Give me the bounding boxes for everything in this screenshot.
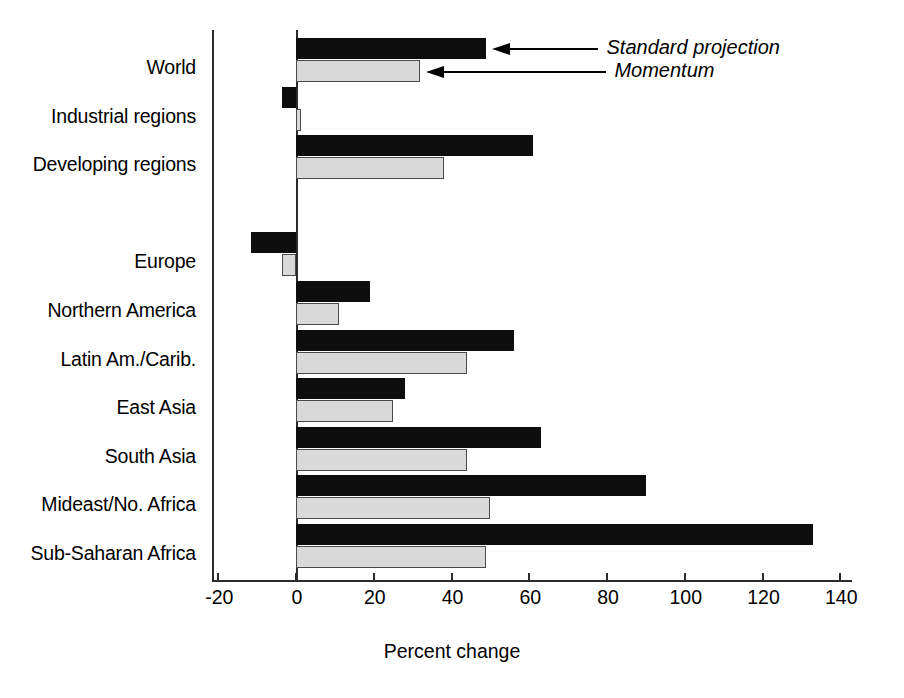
x-tick-label: 120: [734, 586, 794, 608]
bar-mom: [296, 546, 486, 568]
x-tick-label: 100: [656, 586, 716, 608]
bar-mom: [296, 109, 301, 131]
bar-mom: [296, 497, 490, 519]
momentum-arrow-icon: [426, 65, 606, 79]
bar-mom: [296, 449, 467, 471]
x-axis-line: [212, 580, 852, 582]
x-tick-mark: [451, 573, 453, 582]
bar-mom: [296, 352, 467, 374]
bar-std: [296, 330, 514, 351]
bar-std: [296, 281, 370, 302]
bar-mom: [296, 60, 420, 82]
bar-mom: [296, 400, 393, 422]
x-tick-mark: [684, 573, 686, 582]
x-tick-mark: [295, 573, 297, 582]
x-axis-title: Percent change: [0, 640, 904, 663]
bar-std: [282, 87, 296, 108]
bar-mom: [296, 303, 339, 325]
category-label: East Asia: [0, 397, 196, 417]
category-label: Northern America: [0, 300, 196, 320]
bar-std: [296, 475, 646, 496]
bar-mom: [282, 254, 296, 276]
category-label: Mideast/No. Africa: [0, 494, 196, 514]
left-axis-spine: [212, 30, 214, 582]
x-tick-mark: [528, 573, 530, 582]
x-tick-label: 40: [423, 586, 483, 608]
bar-mom: [296, 157, 444, 179]
category-label: Sub-Saharan Africa: [0, 543, 196, 563]
x-tick-mark: [839, 573, 841, 582]
category-label: Latin Am./Carib.: [0, 349, 196, 369]
bar-std: [296, 38, 486, 59]
x-tick-mark: [762, 573, 764, 582]
x-tick-label: 60: [500, 586, 560, 608]
x-tick-label: 0: [267, 586, 327, 608]
category-label: Europe: [0, 251, 196, 271]
x-tick-mark: [217, 573, 219, 582]
category-label: World: [0, 57, 196, 77]
x-tick-mark: [373, 573, 375, 582]
bar-std: [251, 232, 296, 253]
x-tick-mark: [606, 573, 608, 582]
momentum-annotation-label: Momentum: [614, 59, 714, 82]
plot-area: -20020406080100120140 Standard projectio…: [212, 30, 852, 582]
bar-std: [296, 135, 533, 156]
x-tick-label: -20: [189, 586, 249, 608]
standard-projection-arrow-icon: [492, 42, 598, 56]
bar-std: [296, 427, 541, 448]
x-tick-label: 80: [578, 586, 638, 608]
bar-chart: WorldIndustrial regionsDeveloping region…: [0, 0, 904, 698]
bar-std: [296, 378, 405, 399]
category-label: Developing regions: [0, 154, 196, 174]
bar-std: [296, 524, 813, 545]
category-labels: WorldIndustrial regionsDeveloping region…: [0, 30, 196, 590]
standard-projection-annotation-label: Standard projection: [606, 36, 779, 59]
category-label: South Asia: [0, 446, 196, 466]
x-tick-label: 140: [811, 586, 871, 608]
x-tick-label: 20: [345, 586, 405, 608]
category-label: Industrial regions: [0, 106, 196, 126]
